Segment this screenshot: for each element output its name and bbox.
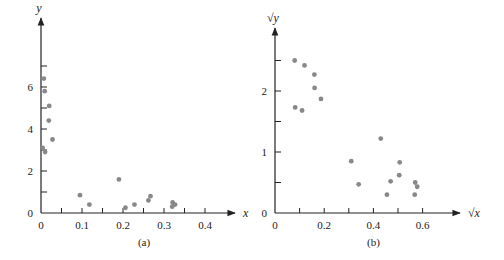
data-point <box>349 159 354 164</box>
data-point <box>87 202 92 207</box>
data-point <box>397 173 402 178</box>
x-tick-label: 0.6 <box>416 219 430 231</box>
y-tick-label: 2 <box>28 165 34 177</box>
x-tick-label: 0.4 <box>198 219 212 231</box>
data-point <box>312 72 317 77</box>
data-point <box>412 192 417 197</box>
y-tick-label: 0 <box>28 207 34 219</box>
x-tick-label: 0.4 <box>367 219 381 231</box>
data-point <box>43 150 48 155</box>
data-point <box>41 76 46 81</box>
data-point <box>378 136 383 141</box>
x-tick-label: 0 <box>272 219 278 231</box>
data-point <box>78 193 83 198</box>
data-point <box>47 104 52 109</box>
y-axis-label: √y <box>267 11 280 25</box>
data-point <box>385 192 390 197</box>
data-point <box>42 89 47 94</box>
data-point <box>397 160 402 165</box>
y-axis-label: y <box>35 1 42 15</box>
figure-caption: (b) <box>367 236 380 249</box>
y-tick-label: 6 <box>28 81 34 93</box>
data-point <box>132 202 137 207</box>
data-point <box>148 194 153 199</box>
x-tick-label: 0.2 <box>116 219 130 231</box>
x-tick-label: 0.1 <box>75 219 89 231</box>
x-axis-label: √x <box>468 206 481 220</box>
figure-caption: (a) <box>138 236 151 249</box>
x-axis-label: x <box>242 206 249 220</box>
data-point <box>388 179 393 184</box>
data-point <box>40 146 45 151</box>
data-point <box>413 180 418 185</box>
scatter-plot-a: 00.10.20.30.40246xy(a) <box>28 1 250 249</box>
data-point <box>146 198 151 203</box>
data-point <box>319 97 324 102</box>
x-tick-label: 0.2 <box>317 219 331 231</box>
figure: 00.10.20.30.40246xy(a) 00.20.40.6012√x√y… <box>0 0 504 260</box>
y-tick-label: 4 <box>28 123 34 135</box>
x-tick-label: 0 <box>38 219 44 231</box>
data-point <box>123 205 128 210</box>
data-point <box>173 202 178 207</box>
data-point <box>312 86 317 91</box>
data-point <box>293 105 298 110</box>
data-point <box>292 58 297 63</box>
data-point <box>50 137 55 142</box>
y-tick-label: 2 <box>262 85 268 97</box>
data-point <box>117 177 122 182</box>
data-point <box>415 184 420 189</box>
data-point <box>356 182 361 187</box>
y-tick-label: 0 <box>262 207 268 219</box>
scatter-plot-b: 00.20.40.6012√x√y(b) <box>262 11 481 249</box>
data-point <box>300 108 305 113</box>
data-point <box>46 118 51 123</box>
data-point <box>302 63 307 68</box>
x-tick-label: 0.3 <box>157 219 171 231</box>
y-tick-label: 1 <box>262 146 268 158</box>
